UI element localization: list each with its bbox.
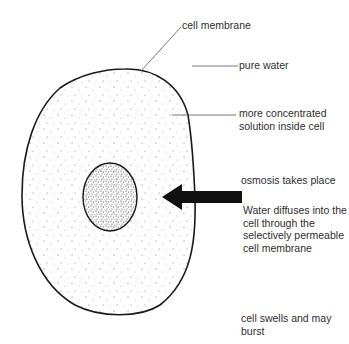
cell-membrane-label: cell membrane [182, 19, 251, 32]
nucleus [83, 163, 137, 231]
cell-membrane-leader-line [141, 27, 181, 71]
osmosis-label: osmosis takes place [241, 174, 336, 187]
water-diffuses-label: Water diffuses into the cell through the… [243, 204, 347, 254]
cell-swells-label: cell swells and may burst [241, 312, 331, 337]
concentrated-solution-label: more concentrated solution inside cell [239, 107, 327, 132]
osmosis-diagram [0, 0, 349, 344]
pure-water-label: pure water [239, 59, 289, 72]
